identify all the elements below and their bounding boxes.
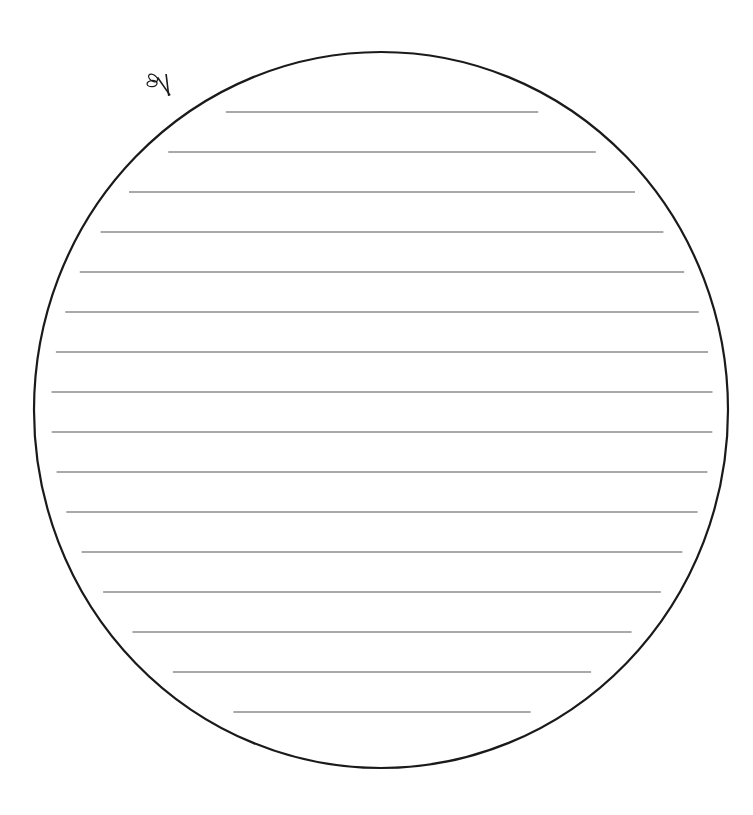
circle-template bbox=[0, 0, 753, 815]
cut-outline-circle bbox=[34, 52, 728, 768]
writing-lines bbox=[52, 112, 713, 712]
scissors-icon bbox=[142, 66, 178, 103]
